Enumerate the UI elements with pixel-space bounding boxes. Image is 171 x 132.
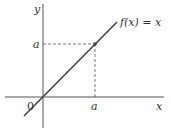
function-line xyxy=(24,22,117,116)
function-label: f(x) = x xyxy=(119,16,162,29)
x-tick-a: a xyxy=(91,100,98,113)
y-tick-a: a xyxy=(33,38,40,51)
point-a-a xyxy=(93,42,97,46)
identity-function-graph: y a 0 a x f(x) = x xyxy=(0,0,171,132)
y-axis-label: y xyxy=(33,3,41,16)
origin-label: 0 xyxy=(27,100,34,113)
x-axis-label: x xyxy=(156,100,163,113)
